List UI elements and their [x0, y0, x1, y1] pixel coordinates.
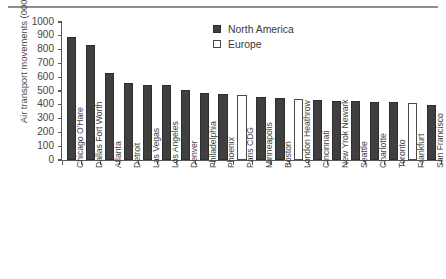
y-axis-tick-label: 500 — [37, 85, 54, 96]
legend-item-europe: Europe — [213, 37, 294, 51]
x-axis-label: Boston — [283, 141, 293, 168]
x-axis-label: Paris CDG — [245, 127, 255, 168]
x-axis-label: Cincinnati — [321, 130, 331, 168]
x-axis-label: London Heathrow — [302, 100, 312, 168]
y-axis-tick-label: 400 — [37, 98, 54, 109]
x-axis-label: Los Angeles — [170, 121, 180, 168]
chart-figure: Air transport movements (000s) 100090080… — [0, 0, 446, 279]
x-axis-label: Detroit — [132, 143, 142, 168]
x-axis-label: Charlotte — [378, 133, 388, 168]
x-axis-label: Chicago O'Hare — [75, 107, 85, 168]
y-axis-tick-label: 0 — [48, 154, 54, 165]
x-axis-label: Las Vegas — [151, 128, 161, 168]
x-axis-label: New Yrok Newark — [340, 99, 350, 168]
y-axis-tick-label: 200 — [37, 126, 54, 137]
y-axis-tick-label: 600 — [37, 71, 54, 82]
y-axis-tick-label: 700 — [37, 57, 54, 68]
y-axis-tick-label: 800 — [37, 43, 54, 54]
x-axis-label: Philadelphia — [208, 121, 218, 168]
legend-swatch-europe-icon — [213, 40, 221, 48]
x-axis-label: San Francisco — [435, 113, 445, 168]
legend-label-north-america: North America — [228, 24, 294, 35]
x-axis-label: Phoenix — [226, 137, 236, 168]
x-axis-label: Denver — [189, 140, 199, 168]
y-axis-tick-label: 900 — [37, 29, 54, 40]
top-divider-rule — [8, 6, 438, 8]
legend-item-north-america: North America — [213, 22, 294, 36]
x-axis-label: Dallas Fort Worth — [94, 101, 104, 168]
legend-swatch-north-america-icon — [213, 25, 221, 33]
y-axis-title: Air transport movements (000s) — [18, 0, 29, 133]
y-axis-tick-label: 300 — [37, 112, 54, 123]
x-axis-label: Minneapolis — [264, 122, 274, 168]
x-axis-label: Atlanta — [113, 141, 123, 168]
y-axis-tick-label: 1000 — [32, 16, 54, 27]
x-axis-label: Frankfurt — [416, 134, 426, 168]
x-axis-label: Seattle — [359, 141, 369, 168]
y-axis-tick-label: 100 — [37, 140, 54, 151]
x-axis-label: Toronto — [397, 139, 407, 168]
legend-label-europe: Europe — [228, 39, 262, 50]
x-axis-tick-mark — [62, 161, 63, 165]
chart-legend: North America Europe — [213, 22, 294, 52]
